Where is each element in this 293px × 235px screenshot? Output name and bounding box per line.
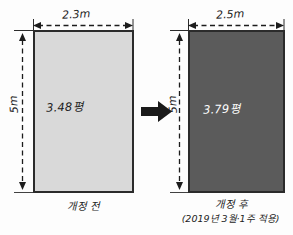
width-label-before: 2.3m [62,7,91,21]
caption-after: 개정 후 [170,196,293,211]
width-label-after: 2.5m [216,7,245,21]
before-width-arrow [33,22,133,29]
height-label-after: 5m [166,95,180,114]
after-width-arrow [188,22,284,29]
caption-before: 개정 전 [0,198,167,213]
caption-after-sub: (2019년 3월·1주 적용) [168,211,293,225]
area-label-after: 3.79평 [203,99,241,116]
area-label-before: 3.48평 [46,97,84,114]
height-label-before: 5m [7,95,21,114]
diagram-canvas: 3.48평 3.79평 2.3m 2.5m 5m 5m 개정 전 개정 후 (2… [0,0,293,235]
